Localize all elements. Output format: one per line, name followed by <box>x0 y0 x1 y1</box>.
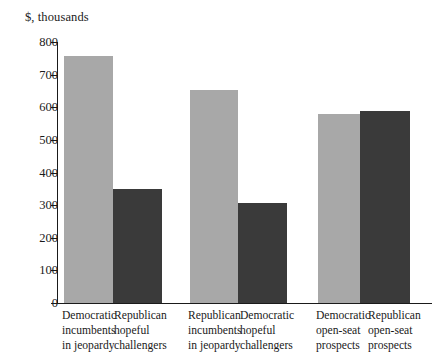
category-label: Democratichopefulchallengers <box>240 308 294 353</box>
category-label-line: hopeful <box>114 323 167 338</box>
category-label-line: open-seat <box>368 323 421 338</box>
y-tick-label: 200 <box>12 232 58 245</box>
y-tick-label: 700 <box>12 68 58 81</box>
y-tick: 200 <box>0 238 58 239</box>
y-tick: 800 <box>0 42 58 43</box>
category-label-line: prospects <box>316 338 370 353</box>
category-label-line: challengers <box>114 338 167 353</box>
y-tick: 100 <box>0 270 58 271</box>
category-label-line: incumbents <box>62 323 116 338</box>
category-label-line: Democratic <box>62 308 116 323</box>
category-label-line: hopeful <box>240 323 294 338</box>
y-tick: 0 <box>0 303 58 304</box>
bar <box>64 56 113 303</box>
category-label-line: Republican <box>188 308 241 323</box>
y-tick-label: 300 <box>12 199 58 212</box>
category-label-line: open-seat <box>316 323 370 338</box>
y-tick-label: 100 <box>12 264 58 277</box>
bar-chart: $, thousands 0100200300400500600700800 D… <box>0 0 445 364</box>
category-label: Republicanhopefulchallengers <box>114 308 167 353</box>
category-label-line: in jeopardy <box>188 338 241 353</box>
y-tick-label: 600 <box>12 101 58 114</box>
y-tick-label: 0 <box>12 297 58 310</box>
bar <box>360 111 410 303</box>
category-label-line: challengers <box>240 338 294 353</box>
x-axis-line <box>57 303 432 304</box>
category-label: Republicanopen-seatprospects <box>368 308 421 353</box>
bar <box>238 203 287 303</box>
y-tick: 600 <box>0 107 58 108</box>
plot-area: 0100200300400500600700800 Democraticincu… <box>0 0 445 364</box>
y-tick: 400 <box>0 173 58 174</box>
category-label-line: Democratic <box>316 308 370 323</box>
category-label-line: prospects <box>368 338 421 353</box>
category-label-line: Republican <box>368 308 421 323</box>
y-tick: 300 <box>0 205 58 206</box>
category-label-line: incumbents <box>188 323 241 338</box>
category-label-line: Democratic <box>240 308 294 323</box>
bar <box>113 189 162 303</box>
category-label: Republicanincumbentsin jeopardy <box>188 308 241 353</box>
category-label-line: Republican <box>114 308 167 323</box>
category-label: Democraticincumbentsin jeopardy <box>62 308 116 353</box>
y-tick-label: 800 <box>12 36 58 49</box>
y-tick-label: 400 <box>12 166 58 179</box>
bar <box>318 114 360 303</box>
y-tick: 500 <box>0 140 58 141</box>
bar <box>190 90 238 303</box>
y-tick: 700 <box>0 75 58 76</box>
y-tick-label: 500 <box>12 134 58 147</box>
category-label-line: in jeopardy <box>62 338 116 353</box>
category-label: Democraticopen-seatprospects <box>316 308 370 353</box>
